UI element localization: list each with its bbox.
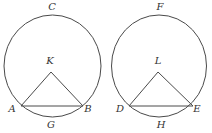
label-l: L xyxy=(154,55,162,66)
label-k: K xyxy=(45,55,54,66)
geometry-diagram: C K A B G F L D E H xyxy=(0,0,212,133)
label-d: D xyxy=(115,103,124,114)
triangle-dle xyxy=(129,72,193,106)
right-figure: F L D E H xyxy=(112,1,207,130)
circle-left xyxy=(4,15,101,117)
left-figure: C K A B G xyxy=(4,1,101,130)
triangle-akb xyxy=(21,72,83,106)
label-c: C xyxy=(48,1,56,12)
label-g: G xyxy=(47,119,55,130)
label-b: B xyxy=(83,103,91,114)
label-h: H xyxy=(156,119,166,130)
label-a: A xyxy=(7,103,15,114)
label-f: F xyxy=(156,1,165,12)
label-e: E xyxy=(192,103,201,114)
circle-right xyxy=(112,15,207,117)
